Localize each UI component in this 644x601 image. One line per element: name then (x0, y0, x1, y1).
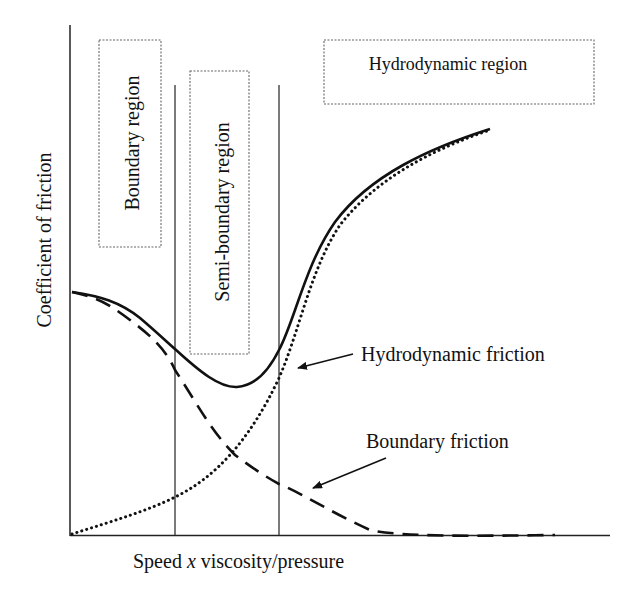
arrow-icon (298, 354, 353, 368)
boundary-region-label: Boundary region (121, 76, 144, 211)
boundary-friction-annotation: Boundary friction (313, 430, 509, 488)
y-axis-label: Coefficient of friction (33, 152, 55, 327)
hydrodynamic-friction-annotation: Hydrodynamic friction (298, 343, 545, 368)
diagram-canvas: Boundary region Semi-boundary region Hyd… (0, 0, 644, 601)
hydrodynamic-region-box: Hydrodynamic region (324, 40, 594, 104)
boundary-friction-label: Boundary friction (366, 430, 509, 453)
hydrodynamic-region-label: Hydrodynamic region (369, 54, 527, 74)
x-axis-label: Speed x viscosity/pressure (133, 550, 344, 573)
semi-boundary-region-label: Semi-boundary region (211, 122, 234, 301)
arrow-icon (313, 458, 386, 488)
hydrodynamic-friction-label: Hydrodynamic friction (361, 343, 545, 366)
boundary-region-box: Boundary region (99, 40, 161, 247)
boundary-friction-curve (72, 292, 555, 536)
friction-diagram: Boundary region Semi-boundary region Hyd… (0, 0, 644, 601)
semi-boundary-region-box: Semi-boundary region (190, 71, 249, 354)
